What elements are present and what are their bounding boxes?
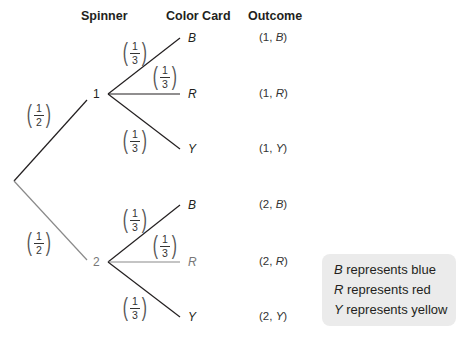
prob-1-Y: (13) [124, 126, 146, 156]
node-spinner-2: 2 [93, 255, 100, 269]
legend-item-red: R represents red [334, 280, 456, 300]
outcome-2-B: (2, B) [259, 198, 287, 210]
leaf-2-B: B [188, 198, 196, 212]
legend-item-yellow: Y represents yellow [334, 300, 456, 320]
leaf-1-R: R [188, 87, 197, 101]
leaf-2-Y: Y [188, 310, 196, 324]
outcome-1-R: (1, R) [259, 87, 288, 99]
leaf-1-B: B [188, 31, 196, 45]
legend-box: B represents blue R represents red Y rep… [322, 254, 456, 326]
prob-2-R: (13) [154, 231, 176, 261]
outcome-2-Y: (2, Y) [259, 310, 287, 322]
prob-1-R: (13) [154, 62, 176, 92]
legend-item-blue: B represents blue [334, 260, 456, 280]
prob-spinner-1: (12) [28, 100, 50, 130]
outcome-1-B: (1, B) [259, 31, 287, 43]
prob-spinner-2: (12) [28, 228, 50, 258]
node-spinner-1: 1 [93, 87, 100, 101]
outcome-2-R: (2, R) [259, 255, 288, 267]
leaf-2-R: R [188, 255, 197, 269]
prob-2-Y: (13) [124, 293, 146, 323]
leaf-1-Y: Y [188, 142, 196, 156]
prob-1-B: (13) [124, 38, 146, 68]
prob-2-B: (13) [124, 205, 146, 235]
outcome-1-Y: (1, Y) [259, 142, 287, 154]
